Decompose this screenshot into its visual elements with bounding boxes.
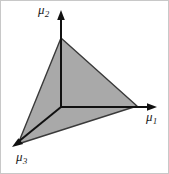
- mu1-subscript: 1: [153, 116, 158, 126]
- axis-label-mu1: μ1: [146, 110, 157, 126]
- mu3-subscript: 3: [23, 156, 28, 166]
- figure-canvas: μ2 μ1 μ3: [0, 0, 169, 174]
- mu2-glyph: μ: [38, 2, 45, 17]
- mu2-subscript: 2: [45, 9, 50, 19]
- axis-label-mu2: μ2: [38, 3, 49, 19]
- diagram-svg: [0, 0, 169, 174]
- mu3-glyph: μ: [16, 149, 23, 164]
- axis-label-mu3: μ3: [16, 150, 27, 166]
- mu1-glyph: μ: [146, 109, 153, 124]
